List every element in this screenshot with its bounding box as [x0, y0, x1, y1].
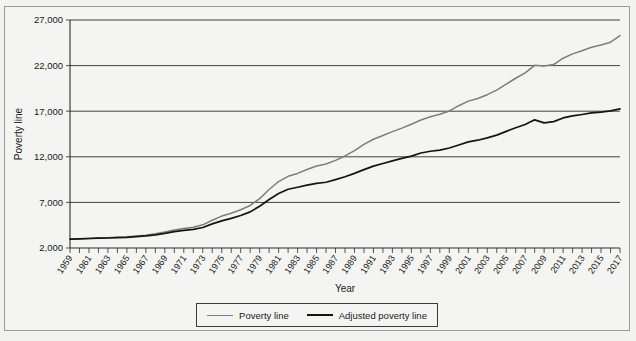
x-axis-tick-label: 2007 — [510, 253, 530, 275]
x-axis-tick-label: 2011 — [548, 253, 567, 275]
x-axis-tick-label: 1975 — [207, 253, 227, 275]
chart-legend: Poverty line Adjusted poverty line — [196, 303, 438, 327]
y-axis-tick-label: 22,000 — [34, 60, 63, 71]
y-axis-title: Poverty line — [13, 107, 24, 160]
x-axis-tick-label: 1969 — [150, 253, 170, 275]
y-axis-tick-label: 12,000 — [34, 151, 63, 162]
legend-item-poverty-line: Poverty line — [207, 310, 289, 321]
x-axis-tick-label: 1981 — [264, 253, 284, 275]
x-axis-tick-label: 1997 — [415, 253, 435, 275]
x-axis-tick-label: 1979 — [245, 253, 265, 275]
gridlines-group — [70, 20, 620, 202]
line-chart-plot: 2,0007,00012,00017,00022,00027,000 19591… — [0, 0, 636, 341]
x-axis-tick-label: 1965 — [112, 253, 132, 275]
x-axis-tick-label: 1963 — [93, 253, 113, 275]
x-axis-tick-label: 1987 — [320, 253, 340, 275]
gray-line-swatch — [207, 315, 233, 316]
y-axis-ticks-group — [66, 20, 70, 248]
y-axis-tick-label: 27,000 — [34, 14, 63, 25]
x-axis-tick-label: 2001 — [453, 253, 473, 275]
x-axis-tick-label: 1999 — [434, 253, 454, 275]
y-axis-tick-label: 17,000 — [34, 106, 63, 117]
x-axis-tick-label: 1991 — [358, 253, 378, 275]
x-axis-tick-label: 1989 — [339, 253, 359, 275]
x-axis-tick-label: 1971 — [169, 253, 189, 275]
legend-item-adjusted-poverty-line: Adjusted poverty line — [307, 310, 427, 321]
x-axis-ticks-group — [70, 248, 620, 253]
x-axis-tick-label: 1959 — [55, 253, 75, 275]
x-axis-tick-label: 2003 — [472, 253, 492, 275]
x-axis-tick-label: 1985 — [302, 253, 322, 275]
legend-label-poverty-line: Poverty line — [239, 310, 289, 321]
x-axis-tick-label: 1977 — [226, 253, 246, 275]
y-axis-tick-label: 2,000 — [39, 242, 63, 253]
x-axis-tick-label: 1961 — [74, 253, 94, 275]
x-axis-tick-label: 2015 — [586, 253, 606, 275]
x-axis-tick-label: 1993 — [377, 253, 397, 275]
black-line-swatch — [307, 314, 333, 316]
series-line-poverty-line — [70, 36, 620, 239]
x-axis-tick-label: 2013 — [567, 253, 587, 275]
x-axis-tick-label: 1973 — [188, 253, 208, 275]
chart-figure: 2,0007,00012,00017,00022,00027,000 19591… — [0, 0, 636, 341]
x-axis-title: Year — [335, 283, 356, 294]
x-axis-tick-label: 2017 — [605, 253, 625, 275]
y-axis-tick-label: 7,000 — [39, 197, 63, 208]
x-axis-tick-label: 2005 — [491, 253, 511, 275]
x-axis-tick-label: 1995 — [396, 253, 416, 275]
x-axis-tick-label: 1967 — [131, 253, 151, 275]
x-axis-tick-label: 2009 — [529, 253, 549, 275]
series-line-adjusted-poverty-line — [70, 109, 620, 239]
y-axis-tick-labels-group: 2,0007,00012,00017,00022,00027,000 — [34, 14, 63, 253]
x-axis-tick-labels-group: 1959196119631965196719691971197319751977… — [55, 253, 625, 275]
x-axis-tick-label: 1983 — [283, 253, 303, 275]
legend-label-adjusted-poverty-line: Adjusted poverty line — [339, 310, 427, 321]
